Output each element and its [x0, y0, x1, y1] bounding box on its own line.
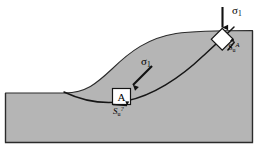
sigma1-top-subscript: 1: [238, 9, 242, 18]
stress-top-subscript: u: [233, 47, 236, 53]
undrained-strength-label-top: SuA: [228, 42, 239, 53]
soil-mass-body: [6, 31, 253, 143]
sigma1-top-label: σ1: [232, 5, 242, 17]
sigma1-mid-subscript: 1: [147, 60, 151, 69]
soil-element-a-letter: A: [113, 89, 130, 104]
undrained-strength-label-mid: Su?: [113, 106, 124, 117]
figure-canvas: [0, 0, 264, 151]
stress-mid-subscript: u: [118, 111, 121, 117]
stress-mid-superscript: ?: [121, 105, 124, 112]
stress-top-superscript: A: [236, 41, 240, 48]
slope-stability-figure: σ1 σ1 SuA Su? A: [0, 0, 264, 151]
sigma1-mid-label: σ1: [141, 56, 151, 68]
